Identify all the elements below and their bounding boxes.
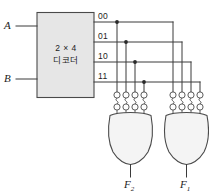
decoder-output-label-10: 10 (98, 52, 108, 61)
fuse-bubble-f1-bot-3[interactable] (188, 104, 194, 110)
fuse-link-f1-1 (172, 98, 174, 104)
gate-output-subscript-f2: 2 (131, 185, 135, 193)
fuse-bubble-f1-top-4[interactable] (197, 92, 203, 98)
or-gate-body-f1 (165, 113, 209, 165)
fuse-link-f1-3 (190, 98, 192, 104)
fuse-bubble-f2-bot-4[interactable] (141, 104, 147, 110)
circuit-svg (0, 0, 209, 196)
fuse-link-f1-4 (199, 98, 201, 104)
fuse-bubble-f2-top-2[interactable] (123, 92, 129, 98)
fuse-bubble-f1-bot-4[interactable] (197, 104, 203, 110)
fuse-link-f2-1 (116, 98, 118, 104)
fuse-link-f2-2 (125, 98, 127, 104)
decoder-output-label-00: 00 (98, 12, 108, 21)
input-label-b: B (4, 73, 11, 84)
fuse-bubble-f2-top-3[interactable] (132, 92, 138, 98)
fuse-bubble-f2-top-4[interactable] (141, 92, 147, 98)
input-label-a: A (4, 20, 11, 31)
decoder-output-label-11: 11 (98, 72, 107, 81)
fuse-bubble-f2-bot-1[interactable] (114, 104, 120, 110)
decoder-output-label-01: 01 (98, 32, 108, 41)
or-gate-body-f2 (109, 113, 153, 165)
decoder-label-line2: 디코더 (37, 56, 95, 65)
gate-output-label-f2: F2 (124, 179, 134, 193)
fuse-bubble-f1-top-1[interactable] (170, 92, 176, 98)
fuse-bubble-f1-bot-1[interactable] (170, 104, 176, 110)
fuse-bubble-f1-top-2[interactable] (179, 92, 185, 98)
fuse-bubble-f2-bot-3[interactable] (132, 104, 138, 110)
junction-dot-01 (124, 40, 128, 44)
gate-output-letter-f1: F (180, 178, 187, 190)
junction-dot-11 (142, 80, 146, 84)
fuse-link-f2-3 (134, 98, 136, 104)
gate-output-letter-f2: F (124, 178, 131, 190)
fuse-bubble-f1-top-3[interactable] (188, 92, 194, 98)
fuse-bubble-f2-bot-2[interactable] (123, 104, 129, 110)
gate-output-subscript-f1: 1 (187, 185, 191, 193)
fuse-link-f2-4 (143, 98, 145, 104)
junction-dot-00 (115, 20, 119, 24)
gate-output-label-f1: F1 (180, 179, 190, 193)
junction-dot-10 (133, 60, 137, 64)
fuse-bubble-f2-top-1[interactable] (114, 92, 120, 98)
fuse-link-f1-2 (181, 98, 183, 104)
fuse-bubble-f1-bot-2[interactable] (179, 104, 185, 110)
decoder-label-line1: 2 × 4 (37, 44, 95, 53)
logic-diagram-figure: A B 2 × 4 디코더 00 01 10 11 F2 F1 (0, 0, 209, 196)
